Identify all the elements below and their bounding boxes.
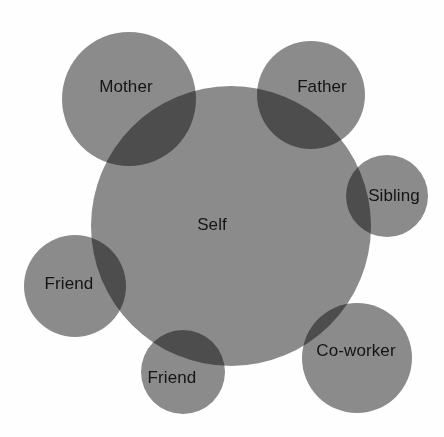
label-co-worker: Co-worker <box>316 341 396 360</box>
circle-mother[interactable] <box>62 32 196 166</box>
venn-svg: Self Mother Father Sibling Friend Friend… <box>0 0 444 437</box>
label-father: Father <box>297 77 347 96</box>
venn-diagram-canvas: Self Mother Father Sibling Friend Friend… <box>0 0 444 437</box>
label-sibling: Sibling <box>368 186 420 205</box>
label-friend-bottom: Friend <box>148 368 197 387</box>
label-self: Self <box>197 215 227 234</box>
label-friend-left: Friend <box>45 274 94 293</box>
label-mother: Mother <box>99 77 153 96</box>
